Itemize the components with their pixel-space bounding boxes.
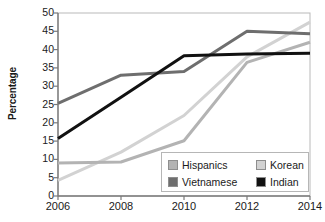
legend-label: Korean [270,159,304,171]
legend-entry-korean[interactable]: Korean [256,159,312,171]
legend-label: Vietnamese [182,176,237,188]
legend-entry-indian[interactable]: Indian [256,176,312,188]
legend-entry-hispanics[interactable]: Hispanics [168,159,256,171]
x-axis-tick-label: 2014 [287,200,325,212]
line-chart: Percentage 05101520253035404550 20062008… [0,0,325,222]
legend-swatch-icon [256,177,266,187]
series-line-hispanics [58,42,310,163]
legend-swatch-icon [256,160,266,170]
legend-label: Indian [270,176,299,188]
legend-entry-vietnamese[interactable]: Vietnamese [168,176,256,188]
series-line-indian [58,53,310,138]
x-axis-tick-label: 2012 [224,200,270,212]
legend-swatch-icon [168,177,178,187]
x-axis-tick-label: 2006 [35,200,81,212]
x-axis-tick-label: 2010 [161,200,207,212]
x-axis-tick-label: 2008 [98,200,144,212]
chart-legend: HispanicsKoreanVietnameseIndian [161,152,309,192]
legend-label: Hispanics [182,159,228,171]
legend-swatch-icon [168,160,178,170]
